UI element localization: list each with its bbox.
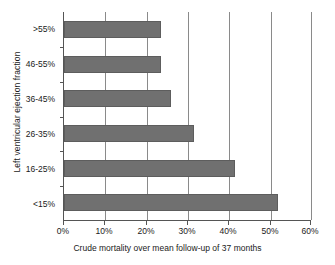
y-axis-tick-label: <15% xyxy=(0,186,60,221)
x-axis-tick-mark xyxy=(187,221,188,225)
x-axis-tick-mark xyxy=(310,221,311,225)
y-axis-tick-labels: >55% 46-55% 36-45% 26-35% 16-25% <15% xyxy=(0,12,60,221)
x-axis-title: Crude mortality over mean follow-up of 3… xyxy=(0,243,335,253)
y-axis-tick-label: 26-35% xyxy=(0,116,60,151)
x-axis-ticks: 0% 10% 20% 30% 40% 50% 60% xyxy=(63,221,311,226)
plot-area xyxy=(63,12,311,221)
x-axis-tick-mark xyxy=(270,221,271,225)
y-axis-tick-label: >55% xyxy=(0,12,60,47)
bar-slot xyxy=(64,151,311,186)
x-axis-tick-mark xyxy=(228,221,229,225)
x-axis-tick-mark xyxy=(63,221,64,225)
y-axis-tick-label: 16-25% xyxy=(0,151,60,186)
y-axis-tick-label: 36-45% xyxy=(0,82,60,117)
x-axis-tick-label: 30% xyxy=(178,226,195,236)
x-axis-tick-label: 20% xyxy=(137,226,154,236)
x-axis-tick-label: 40% xyxy=(219,226,236,236)
x-axis-tick-label: 60% xyxy=(301,226,318,236)
bar xyxy=(64,90,171,107)
bar xyxy=(64,194,278,211)
bar-series xyxy=(64,12,311,220)
bar xyxy=(64,125,194,142)
y-axis-tick-label: 46-55% xyxy=(0,47,60,82)
bar-slot xyxy=(64,116,311,151)
bar xyxy=(64,160,235,177)
bar-slot xyxy=(64,12,311,47)
x-axis-tick-label: 10% xyxy=(95,226,112,236)
bar xyxy=(64,21,161,38)
bar-slot xyxy=(64,47,311,82)
gridline-60 xyxy=(311,12,312,220)
x-axis-tick-mark xyxy=(146,221,147,225)
bar xyxy=(64,56,161,73)
x-axis-tick-mark xyxy=(104,221,105,225)
bar-chart-figure: Left ventricular ejection fraction >55% … xyxy=(0,0,335,265)
x-axis-tick-label: 0% xyxy=(57,226,69,236)
bar-slot xyxy=(64,81,311,116)
bar-slot xyxy=(64,185,311,220)
x-axis-tick-label: 50% xyxy=(261,226,278,236)
